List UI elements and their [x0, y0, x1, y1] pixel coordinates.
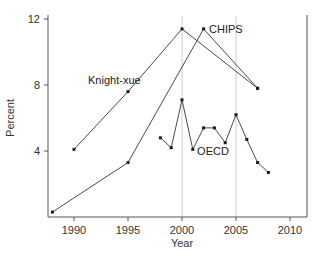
data-point — [127, 161, 130, 164]
data-point — [224, 141, 227, 144]
data-point — [159, 136, 162, 139]
series-knight-xue — [73, 27, 260, 150]
x-axis-title: Year — [171, 237, 194, 249]
series-label: CHIPS — [209, 23, 243, 35]
y-tick-label: 8 — [34, 79, 40, 91]
data-point — [51, 211, 54, 214]
data-point — [245, 138, 248, 141]
data-point — [191, 148, 194, 151]
data-point — [181, 98, 184, 101]
data-point — [73, 148, 76, 151]
line-chart: 481219901995200020052010 Knight-xueCHIPS… — [0, 0, 325, 261]
series-labels: Knight-xueCHIPSOECD — [88, 23, 243, 157]
data-point — [181, 27, 184, 30]
series-oecd — [159, 98, 270, 174]
x-tick-label: 1995 — [116, 224, 140, 236]
x-tick-label: 1990 — [62, 224, 86, 236]
data-point — [127, 90, 130, 93]
data-point — [267, 171, 270, 174]
y-axis-title: Percent — [4, 99, 16, 137]
series-chips — [51, 27, 259, 213]
data-point — [202, 27, 205, 30]
y-tick-label: 4 — [34, 145, 40, 157]
data-point — [213, 126, 216, 129]
data-point — [202, 126, 205, 129]
series-line — [160, 100, 268, 173]
series-line — [52, 29, 257, 212]
data-point — [256, 87, 259, 90]
data-point — [170, 146, 173, 149]
series-label: Knight-xue — [88, 74, 141, 86]
y-tick-label: 12 — [28, 13, 40, 25]
x-tick-label: 2005 — [224, 224, 248, 236]
x-tick-label: 2000 — [170, 224, 194, 236]
reference-lines — [182, 16, 236, 217]
series-label: OECD — [197, 145, 229, 157]
x-tick-label: 2010 — [278, 224, 302, 236]
data-point — [235, 113, 238, 116]
series-group — [51, 27, 270, 213]
data-point — [256, 161, 259, 164]
